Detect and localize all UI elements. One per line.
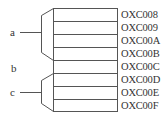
address-label: OXC00A: [121, 35, 160, 47]
address-label: OXC00B: [121, 48, 159, 60]
address-label: OXC00C: [121, 61, 159, 73]
group-label-b: b: [11, 62, 17, 74]
address-label: OXC008: [121, 9, 158, 21]
group-c-bracket: [42, 74, 54, 112]
group-label-a: a: [10, 26, 15, 38]
group-a-bracket: [42, 9, 54, 61]
address-label: OXC00E: [121, 87, 159, 99]
address-label: OXC009: [121, 22, 158, 34]
address-label: OXC00F: [121, 100, 158, 112]
group-label-c: c: [10, 86, 15, 98]
address-label: OXC00D: [121, 74, 160, 86]
